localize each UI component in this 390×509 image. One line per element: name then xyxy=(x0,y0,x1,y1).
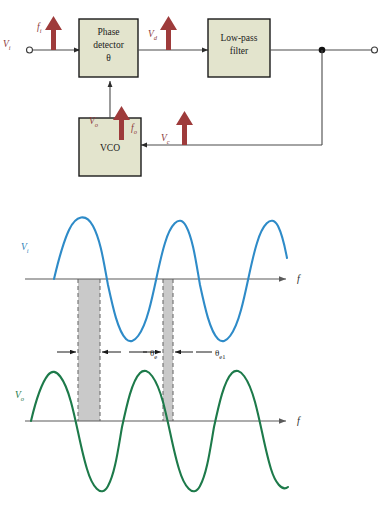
phase-detector-label-line2: detector xyxy=(93,40,124,50)
label-fi: fi xyxy=(37,22,42,34)
vo-waveform-label: Vo xyxy=(15,390,25,402)
band-theta-e-fill xyxy=(78,279,100,421)
label-theta-e1: θe1 xyxy=(215,348,225,360)
phase-detector-label-line1: Phase xyxy=(97,27,119,37)
figure-canvas: Phase detector θ Low-pass filter VCO xyxy=(0,0,390,509)
arrow-fi xyxy=(45,16,62,50)
label-vc: Vc xyxy=(161,133,170,145)
input-terminal[interactable] xyxy=(27,47,33,53)
band-theta-e1-fill xyxy=(163,279,173,421)
phase-detector-theta-symbol: θ xyxy=(106,53,111,63)
vo-waveform-curve xyxy=(31,371,288,491)
label-theta-e: θe xyxy=(150,348,157,360)
label-vi-input: Vi xyxy=(3,39,11,51)
label-vd: Vd xyxy=(148,29,158,41)
arrow-vd xyxy=(160,16,177,50)
vi-waveform-label: Vi xyxy=(21,242,29,254)
pll-figure-svg: Phase detector θ Low-pass filter VCO xyxy=(0,0,390,509)
arrow-vc xyxy=(176,111,193,145)
waveform-plot-group: f Vi θe θe1 f Vo xyxy=(15,217,301,491)
block-diagram-group: Phase detector θ Low-pass filter VCO xyxy=(3,16,378,176)
low-pass-filter-label-line1: Low-pass xyxy=(221,33,258,43)
low-pass-filter-label-line2: filter xyxy=(230,46,249,56)
vo-axis-label-f: f xyxy=(297,415,301,426)
vco-label: VCO xyxy=(100,143,120,153)
output-terminal[interactable] xyxy=(372,47,378,53)
vi-axis-label-f: f xyxy=(297,273,301,284)
